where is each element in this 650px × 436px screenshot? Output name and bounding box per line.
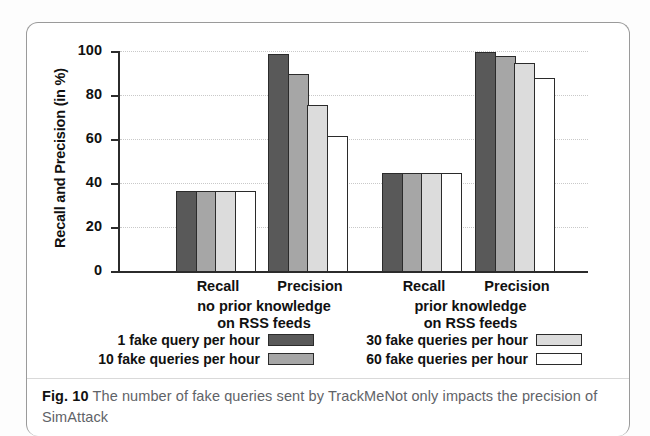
bar xyxy=(215,191,236,272)
y-tick-label: 60 xyxy=(86,130,102,146)
legend-item: 10 fake queries per hour xyxy=(72,351,314,367)
x-tick-label: Precision xyxy=(484,278,549,294)
y-tick-label: 20 xyxy=(86,218,102,234)
legend-swatch xyxy=(268,353,314,365)
legend-label: 1 fake query per hour xyxy=(118,332,260,348)
bar xyxy=(268,54,289,272)
bar xyxy=(307,105,328,272)
legend-item: 30 fake queries per hour xyxy=(340,332,582,348)
y-tick-label: 80 xyxy=(86,86,102,102)
bar xyxy=(196,191,217,272)
y-tick: 40 xyxy=(111,183,120,185)
bar xyxy=(235,191,256,272)
x-group-caption-line: prior knowledge xyxy=(415,298,527,315)
bar xyxy=(176,191,197,272)
x-tick-label: Precision xyxy=(277,278,342,294)
x-tick-label: Recall xyxy=(403,278,446,294)
x-group-caption-line: on RSS feeds xyxy=(197,315,331,332)
bar-groups xyxy=(120,52,588,272)
bar xyxy=(495,56,516,272)
bar-group xyxy=(382,52,461,272)
x-tick-label: Recall xyxy=(197,278,240,294)
y-axis-label: Recall and Precision (in %) xyxy=(52,28,74,248)
y-tick: 80 xyxy=(111,95,120,97)
caption-label: Fig. 10 xyxy=(42,388,89,404)
legend-swatch xyxy=(268,334,314,346)
figure-root: Recall and Precision (in %) 020406080100… xyxy=(0,0,650,436)
bar xyxy=(327,136,348,272)
y-tick-label: 100 xyxy=(78,42,102,58)
caption-divider xyxy=(27,378,629,379)
legend-item: 1 fake query per hour xyxy=(72,332,314,348)
legend-item: 60 fake queries per hour xyxy=(340,351,582,367)
legend-label: 30 fake queries per hour xyxy=(366,332,528,348)
bar xyxy=(421,173,442,272)
bar-group xyxy=(475,52,554,272)
bar xyxy=(475,52,496,272)
legend-swatch xyxy=(536,353,582,365)
y-tick-label: 0 xyxy=(94,262,102,278)
y-tick: 0 xyxy=(111,271,120,273)
bar-group xyxy=(176,52,255,272)
axes: 020406080100 xyxy=(118,52,588,272)
legend-swatch xyxy=(536,334,582,346)
x-group-caption: prior knowledgeon RSS feeds xyxy=(415,298,527,332)
x-group-caption-line: on RSS feeds xyxy=(415,315,527,332)
bar xyxy=(514,63,535,272)
bar xyxy=(534,78,555,272)
bar xyxy=(288,74,309,272)
bar xyxy=(382,173,403,272)
y-tick: 100 xyxy=(111,51,120,53)
plot-area: Recall and Precision (in %) 020406080100… xyxy=(40,28,600,288)
caption-text: The number of fake queries sent by Track… xyxy=(42,388,597,425)
y-tick: 60 xyxy=(111,139,120,141)
x-group-caption: no prior knowledgeon RSS feeds xyxy=(197,298,331,332)
x-axis-labels: RecallPrecisionRecallPrecisionno prior k… xyxy=(120,278,590,338)
bar-group xyxy=(268,52,347,272)
y-tick: 20 xyxy=(111,227,120,229)
y-tick-label: 40 xyxy=(86,174,102,190)
legend-label: 10 fake queries per hour xyxy=(98,351,260,367)
legend-label: 60 fake queries per hour xyxy=(366,351,528,367)
figure-caption: Fig. 10 The number of fake queries sent … xyxy=(42,386,602,428)
bar xyxy=(441,173,462,272)
bar xyxy=(402,173,423,272)
legend: 1 fake query per hour30 fake queries per… xyxy=(72,332,582,367)
x-group-caption-line: no prior knowledge xyxy=(197,298,331,315)
